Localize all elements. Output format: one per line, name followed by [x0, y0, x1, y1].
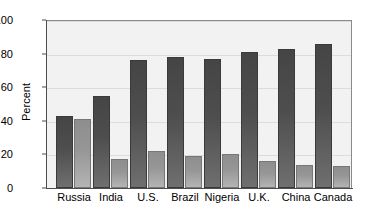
- bar-canada-series2: [333, 166, 350, 188]
- bar-group-uk: [241, 20, 276, 188]
- y-tick-label-40: 40: [0, 115, 13, 126]
- bar-india-series1: [93, 96, 110, 188]
- chart-title: [46, 0, 352, 1]
- bar-group-china: [278, 20, 313, 188]
- bar-russia-series2: [74, 119, 91, 188]
- bar-group-india: [93, 20, 128, 188]
- y-tick-mark-60: [42, 87, 46, 88]
- y-tick-mark-40: [42, 120, 46, 121]
- bar-group-brazil: [167, 20, 202, 188]
- x-tick-label-india: India: [99, 191, 123, 203]
- y-axis-title: Percent: [20, 62, 32, 142]
- x-tick-label-uk: U.K.: [248, 191, 269, 203]
- bar-nigeria-series2: [222, 154, 239, 188]
- bar-china-series2: [296, 165, 313, 189]
- bar-us-series2: [148, 151, 165, 188]
- y-tick-label-100: 100: [0, 15, 13, 26]
- y-tick-label-20: 20: [0, 149, 13, 160]
- bar-canada-series1: [315, 44, 332, 189]
- bar-uk-series1: [241, 52, 258, 188]
- x-tick-label-canada: Canada: [314, 191, 353, 203]
- x-tick-label-us: U.S.: [137, 191, 158, 203]
- y-tick-mark-80: [42, 53, 46, 54]
- x-tick-label-china: China: [282, 191, 311, 203]
- bars-layer: [47, 20, 352, 188]
- bar-nigeria-series1: [204, 59, 221, 188]
- x-tick-label-nigeria: Nigeria: [205, 191, 240, 203]
- x-tick-label-russia: Russia: [57, 191, 91, 203]
- bar-russia-series1: [56, 116, 73, 188]
- bar-chart: 100 80 60 40 20 0 Percent: [0, 0, 366, 213]
- y-tick-mark-0: [42, 188, 46, 189]
- bar-group-canada: [315, 20, 350, 188]
- bar-group-us: [130, 20, 165, 188]
- y-tick-label-0: 0: [0, 183, 13, 194]
- x-tick-label-brazil: Brazil: [171, 191, 199, 203]
- bar-group-russia: [56, 20, 91, 188]
- bar-uk-series2: [259, 161, 276, 188]
- bar-india-series2: [111, 159, 128, 188]
- bar-group-nigeria: [204, 20, 239, 188]
- y-tick-mark-100: [42, 20, 46, 21]
- bar-brazil-series1: [167, 57, 184, 188]
- y-tick-label-80: 80: [0, 48, 13, 59]
- bar-us-series1: [130, 60, 147, 188]
- bar-brazil-series2: [185, 156, 202, 188]
- x-axis-line: [46, 188, 353, 189]
- y-tick-mark-20: [42, 154, 46, 155]
- y-tick-label-60: 60: [0, 82, 13, 93]
- bar-china-series1: [278, 49, 295, 188]
